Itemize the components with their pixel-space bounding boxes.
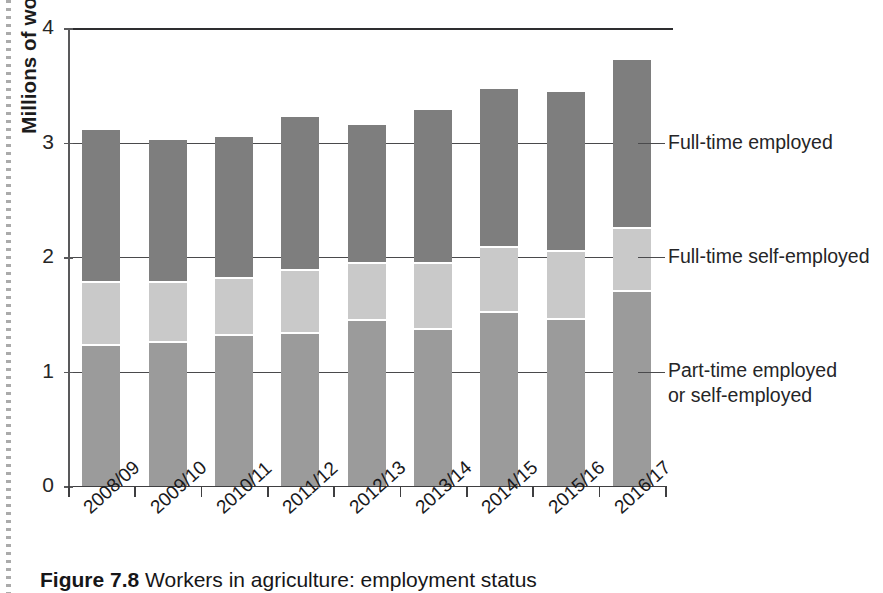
bar-2014-15: [480, 0, 518, 487]
y-tick-label-2: 2: [28, 244, 54, 268]
bar-segment: [281, 117, 319, 269]
bar-segment: [82, 345, 120, 486]
bar-segment: [149, 282, 187, 342]
y-tick-3: [64, 143, 73, 145]
bar-segment: [613, 228, 651, 291]
bar-segment: [149, 342, 187, 486]
bar-segment-separator: [613, 290, 651, 292]
bar-segment-separator: [149, 341, 187, 343]
bar-2010-11: [215, 0, 253, 487]
bar-2008-09: [82, 0, 120, 487]
y-tick-1: [64, 372, 73, 374]
page-edge-dotted-rule: [6, 0, 11, 593]
legend-item-label: Full-time self-employed: [668, 244, 870, 269]
x-tick-6: [466, 486, 468, 497]
bar-segment-separator: [480, 246, 518, 248]
y-tick-label-0: 0: [28, 473, 54, 497]
bar-segment-separator: [547, 250, 585, 252]
bar-2016-17: [613, 0, 651, 487]
bar-segment-separator: [613, 227, 651, 229]
figure-caption-prefix: Figure: [40, 572, 104, 591]
bar-segment: [613, 291, 651, 486]
bar-segment: [414, 263, 452, 329]
bar-segment-separator: [149, 281, 187, 283]
bar-segment: [215, 335, 253, 486]
bar-segment: [414, 329, 452, 486]
x-tick-7: [532, 486, 534, 497]
x-tick-9: [665, 486, 667, 497]
bar-2012-13: [348, 0, 386, 487]
y-tick-label-1: 1: [28, 359, 54, 383]
bar-segment: [215, 137, 253, 278]
bar-segment-separator: [480, 311, 518, 313]
legend-item-label-line2: or self-employed: [668, 383, 837, 408]
bar-segment: [348, 125, 386, 262]
bar-segment-separator: [348, 319, 386, 321]
x-tick-5: [400, 486, 402, 497]
y-tick-4: [64, 28, 73, 30]
bar-segment-separator: [215, 277, 253, 279]
figure-page: Millions of workers 01234 2008/092009/10…: [0, 0, 883, 593]
x-tick-8: [599, 486, 601, 497]
figure-caption: Figure 7.8 Workers in agriculture: emplo…: [40, 572, 537, 592]
x-tick-3: [267, 486, 269, 497]
figure-caption-text: Workers in agriculture: employment statu…: [145, 572, 537, 591]
x-tick-0: [68, 486, 70, 497]
bar-2013-14: [414, 0, 452, 487]
legend-leader-line: [638, 372, 660, 373]
bar-segment: [414, 110, 452, 262]
bar-segment: [82, 130, 120, 282]
legend-item-label: Part-time employedor self-employed: [668, 358, 837, 408]
bar-segment-separator: [281, 269, 319, 271]
bar-segment: [215, 278, 253, 335]
bar-segment-separator: [82, 344, 120, 346]
legend-item-label-line1: Part-time employed: [668, 358, 837, 383]
bar-segment: [547, 92, 585, 251]
bar-segment: [480, 89, 518, 247]
bar-segment-separator: [281, 332, 319, 334]
bar-segment-separator: [348, 262, 386, 264]
x-tick-2: [201, 486, 203, 497]
legend-leader-line: [638, 143, 660, 144]
bar-2015-16: [547, 0, 585, 487]
x-tick-4: [333, 486, 335, 497]
legend-leader-line: [638, 257, 660, 258]
bar-segment-separator: [414, 262, 452, 264]
y-tick-label-4: 4: [28, 15, 54, 39]
bar-segment: [547, 319, 585, 486]
bar-segment-separator: [414, 328, 452, 330]
bar-segment: [348, 320, 386, 486]
bar-segment-separator: [82, 281, 120, 283]
bar-2009-10: [149, 0, 187, 487]
y-tick-2: [64, 257, 73, 259]
bar-segment: [613, 60, 651, 228]
figure-caption-number: 7.8: [110, 572, 139, 591]
bar-segment: [348, 263, 386, 320]
bar-segment: [82, 282, 120, 345]
y-tick-label-3: 3: [28, 130, 54, 154]
bar-segment: [547, 251, 585, 319]
bar-segment: [480, 247, 518, 312]
bar-segment-separator: [215, 334, 253, 336]
bar-segment: [281, 333, 319, 486]
legend-item-label: Full-time employed: [668, 130, 833, 155]
bar-segment: [281, 270, 319, 333]
bar-2011-12: [281, 0, 319, 487]
bar-segment: [149, 140, 187, 282]
bar-segment-separator: [547, 318, 585, 320]
x-tick-1: [134, 486, 136, 497]
bar-segment: [480, 312, 518, 486]
figure-caption-clip: Figure 7.8 Workers in agriculture: emplo…: [40, 572, 740, 593]
